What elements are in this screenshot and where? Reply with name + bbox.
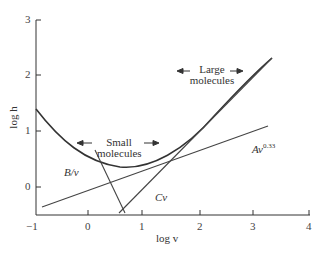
y-tick-2: 2 (25, 69, 31, 80)
x-tick-1: 1 (139, 221, 145, 232)
x-tick-4: 4 (306, 221, 312, 232)
cv-label: Cv (155, 192, 167, 203)
y-tick-0: 0 (25, 181, 31, 192)
bv-line (95, 150, 125, 213)
x-tick-0: 0 (85, 221, 91, 232)
x-tick-neg1: −1 (26, 221, 38, 232)
y-tick-1: 1 (25, 125, 31, 136)
av-label-base: Av (252, 143, 263, 155)
small-molecules-label: Small molecules (97, 137, 141, 159)
large-line2: molecules (188, 75, 236, 86)
large-molecules-label: Large molecules (188, 64, 236, 86)
x-axis-label: log v (156, 233, 178, 244)
chart-canvas (0, 0, 324, 253)
axes (36, 20, 310, 215)
plate-height-curve (36, 58, 272, 167)
av-label: Av0.33 (252, 143, 275, 155)
x-axis-label-text: log v (156, 232, 178, 244)
y-axis-label: log h (8, 106, 19, 128)
x-tick-2: 2 (197, 221, 203, 232)
small-line2: molecules (97, 148, 141, 159)
y-axis-label-text: log h (7, 106, 19, 128)
x-tick-3: 3 (250, 221, 256, 232)
y-tick-3: 3 (25, 14, 31, 25)
bv-label: B/v (64, 167, 79, 178)
av-label-exponent: 0.33 (263, 142, 275, 150)
